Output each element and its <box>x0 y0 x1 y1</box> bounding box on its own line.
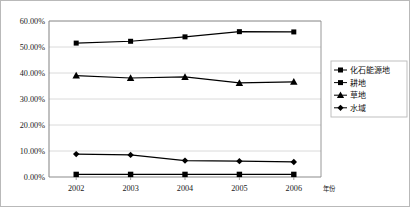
x-axis-title: 年份 <box>323 184 336 193</box>
x-axis-tick-label: 2006 <box>286 184 302 193</box>
series-4 <box>73 151 297 165</box>
data-point <box>128 39 133 44</box>
legend-label: 化石能源地 <box>350 65 390 75</box>
series-3 <box>72 72 297 86</box>
series-1 <box>74 29 297 45</box>
series-2 <box>74 172 297 177</box>
legend-marker-icon <box>338 68 343 73</box>
legend-marker-icon <box>338 80 343 85</box>
data-point <box>182 172 187 177</box>
x-axis-tick-label: 2005 <box>231 184 247 193</box>
data-point <box>128 172 133 177</box>
legend-label: 水域 <box>350 103 366 113</box>
data-point <box>74 41 79 46</box>
data-point <box>237 172 242 177</box>
data-point <box>291 29 296 34</box>
data-point <box>237 29 242 34</box>
y-axis-tick-label: 30.00% <box>20 95 45 104</box>
data-point <box>183 34 188 39</box>
y-axis-tick-label: 20.00% <box>20 121 45 130</box>
data-point <box>291 172 296 177</box>
legend-label: 草地 <box>350 90 366 100</box>
data-point <box>127 152 133 158</box>
x-axis-tick-label: 2002 <box>68 184 84 193</box>
x-axis-tick-label: 2004 <box>177 184 193 193</box>
y-axis-tick-label: 60.00% <box>20 17 45 26</box>
data-point <box>236 158 242 164</box>
data-point <box>73 151 79 157</box>
legend-label: 耕地 <box>350 78 366 88</box>
data-point <box>182 157 188 163</box>
data-point <box>74 172 79 177</box>
data-point <box>291 159 297 165</box>
y-axis-tick-label: 0.00% <box>24 173 45 182</box>
chart-frame: 0.00%10.00%20.00%30.00%40.00%50.00%60.00… <box>0 0 410 207</box>
x-axis-tick-label: 2003 <box>122 184 138 193</box>
line-chart: 0.00%10.00%20.00%30.00%40.00%50.00%60.00… <box>1 1 410 207</box>
y-axis-tick-label: 40.00% <box>20 69 45 78</box>
y-axis-tick-label: 50.00% <box>20 43 45 52</box>
y-axis-tick-label: 10.00% <box>20 147 45 156</box>
